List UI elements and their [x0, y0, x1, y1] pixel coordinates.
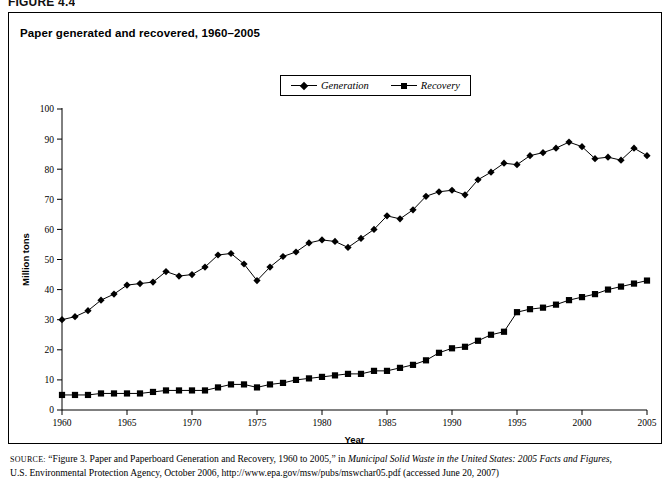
data-point-marker	[202, 387, 208, 393]
x-tick-label: 1990	[443, 418, 462, 428]
data-point-marker	[71, 313, 78, 320]
data-point-marker	[397, 365, 403, 371]
data-point-marker	[85, 392, 91, 398]
source-text-line2: U.S. Environmental Protection Agency, Oc…	[10, 467, 499, 478]
data-point-marker	[644, 277, 650, 283]
data-point-marker	[526, 152, 533, 159]
data-point-marker	[448, 187, 455, 194]
data-point-marker	[396, 215, 403, 222]
data-point-marker	[513, 161, 520, 168]
data-point-marker	[175, 272, 182, 279]
y-tick-label: 100	[40, 104, 55, 114]
data-point-marker	[371, 368, 377, 374]
series-line	[62, 142, 647, 320]
chart-panel: Paper generated and recovered, 1960–2005…	[8, 12, 662, 444]
data-point-marker	[254, 384, 260, 390]
data-point-marker	[292, 248, 299, 255]
legend-line-generation	[291, 85, 317, 86]
series-recovery	[59, 277, 650, 398]
source-note: SOURCE: “Figure 3. Paper and Paperboard …	[10, 452, 664, 480]
data-point-marker	[137, 390, 143, 396]
data-point-marker	[98, 390, 104, 396]
y-tick-label: 90	[45, 135, 55, 145]
data-point-marker	[189, 387, 195, 393]
series-generation	[58, 139, 650, 324]
x-tick-label: 2000	[573, 418, 592, 428]
data-point-marker	[293, 377, 299, 383]
data-point-marker	[136, 280, 143, 287]
data-point-marker	[539, 149, 546, 156]
legend-entry-generation: Generation	[291, 80, 369, 91]
data-point-marker	[618, 283, 624, 289]
data-point-marker	[488, 332, 494, 338]
y-tick-label: 0	[49, 405, 54, 415]
y-tick-label: 10	[45, 375, 55, 385]
data-point-marker	[163, 387, 169, 393]
figure-page: FIGURE 4.4 Paper generated and recovered…	[0, 0, 672, 486]
data-point-marker	[331, 238, 338, 245]
data-point-marker	[267, 381, 273, 387]
data-point-marker	[188, 271, 195, 278]
data-point-marker	[553, 302, 559, 308]
data-point-marker	[487, 169, 494, 176]
data-point-marker	[58, 316, 65, 323]
data-point-marker	[318, 236, 325, 243]
data-point-marker	[579, 294, 585, 300]
data-point-marker	[605, 287, 611, 293]
square-marker-icon	[401, 83, 407, 89]
data-point-marker	[228, 381, 234, 387]
data-point-marker	[500, 160, 507, 167]
legend-label-generation: Generation	[321, 80, 369, 91]
y-tick-label: 60	[45, 225, 55, 235]
source-text-pre: “Figure 3. Paper and Paperboard Generati…	[46, 453, 348, 464]
x-tick-label: 1985	[378, 418, 397, 428]
data-point-marker	[280, 380, 286, 386]
data-point-marker	[643, 152, 650, 159]
data-point-marker	[345, 371, 351, 377]
x-tick-label: 1995	[508, 418, 527, 428]
source-label: SOURCE:	[10, 455, 46, 464]
data-point-marker	[435, 188, 442, 195]
chart-legend: Generation Recovery	[280, 75, 471, 96]
x-tick-label: 2005	[638, 418, 657, 428]
data-point-marker	[176, 387, 182, 393]
y-tick-label: 80	[45, 165, 55, 175]
data-point-marker	[306, 375, 312, 381]
x-tick-label: 1975	[248, 418, 267, 428]
legend-entry-recovery: Recovery	[391, 80, 460, 91]
data-point-marker	[436, 350, 442, 356]
data-point-marker	[552, 145, 559, 152]
data-point-marker	[344, 244, 351, 251]
data-point-marker	[527, 306, 533, 312]
data-point-marker	[592, 291, 598, 297]
x-tick-label: 1965	[118, 418, 137, 428]
data-point-marker	[566, 297, 572, 303]
source-publication-title: Municipal Solid Waste in the United Stat…	[348, 453, 612, 464]
data-point-marker	[357, 235, 364, 242]
data-point-marker	[475, 338, 481, 344]
data-point-marker	[501, 329, 507, 335]
data-point-marker	[410, 362, 416, 368]
x-axis-title: Year	[344, 434, 364, 445]
data-point-marker	[123, 281, 130, 288]
figure-number: FIGURE 4.4	[8, 0, 75, 9]
y-tick-label: 30	[45, 315, 55, 325]
data-point-marker	[124, 390, 130, 396]
data-point-marker	[111, 390, 117, 396]
data-point-marker	[241, 381, 247, 387]
data-point-marker	[59, 392, 65, 398]
data-point-marker	[305, 239, 312, 246]
y-tick-label: 50	[45, 255, 55, 265]
data-point-marker	[110, 291, 117, 298]
data-point-marker	[423, 357, 429, 363]
data-point-marker	[604, 154, 611, 161]
data-point-marker	[514, 309, 520, 315]
data-point-marker	[449, 345, 455, 351]
data-point-marker	[384, 368, 390, 374]
y-tick-label: 40	[45, 285, 55, 295]
data-point-marker	[215, 384, 221, 390]
diamond-marker-icon	[300, 81, 308, 89]
data-point-marker	[72, 392, 78, 398]
series-line	[62, 281, 647, 395]
legend-line-recovery	[391, 85, 417, 86]
